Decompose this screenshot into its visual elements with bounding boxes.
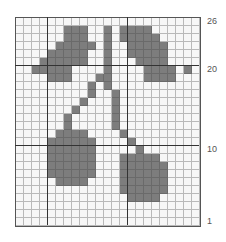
empty-cell — [176, 74, 184, 82]
empty-cell — [16, 202, 24, 210]
filled-stitch-cell — [72, 50, 80, 58]
empty-cell — [176, 82, 184, 90]
empty-cell — [88, 210, 96, 218]
empty-cell — [152, 218, 160, 226]
empty-cell — [32, 218, 40, 226]
empty-cell — [16, 50, 24, 58]
empty-cell — [56, 106, 64, 114]
empty-cell — [32, 130, 40, 138]
empty-cell — [104, 106, 112, 114]
filled-stitch-cell — [56, 42, 64, 50]
empty-cell — [64, 98, 72, 106]
empty-cell — [168, 178, 176, 186]
filled-stitch-cell — [64, 114, 72, 122]
empty-cell — [184, 202, 192, 210]
filled-stitch-cell — [56, 74, 64, 82]
empty-cell — [128, 130, 136, 138]
filled-stitch-cell — [32, 66, 40, 74]
filled-stitch-cell — [48, 50, 56, 58]
empty-cell — [144, 98, 152, 106]
empty-cell — [24, 186, 32, 194]
empty-cell — [48, 210, 56, 218]
filled-stitch-cell — [64, 162, 72, 170]
empty-cell — [16, 170, 24, 178]
empty-cell — [168, 122, 176, 130]
empty-cell — [24, 178, 32, 186]
filled-stitch-cell — [88, 154, 96, 162]
empty-cell — [32, 26, 40, 34]
empty-cell — [104, 210, 112, 218]
empty-cell — [192, 130, 200, 138]
filled-stitch-cell — [56, 50, 64, 58]
filled-stitch-cell — [128, 186, 136, 194]
filled-stitch-cell — [64, 170, 72, 178]
empty-cell — [32, 202, 40, 210]
empty-cell — [32, 186, 40, 194]
empty-cell — [16, 130, 24, 138]
filled-stitch-cell — [72, 34, 80, 42]
empty-cell — [64, 202, 72, 210]
filled-stitch-cell — [152, 194, 160, 202]
filled-stitch-cell — [144, 42, 152, 50]
empty-cell — [24, 210, 32, 218]
empty-cell — [72, 82, 80, 90]
empty-cell — [168, 170, 176, 178]
empty-cell — [136, 218, 144, 226]
empty-cell — [152, 90, 160, 98]
empty-cell — [168, 90, 176, 98]
filled-stitch-cell — [136, 42, 144, 50]
empty-cell — [128, 202, 136, 210]
empty-cell — [24, 162, 32, 170]
filled-stitch-cell — [152, 162, 160, 170]
empty-cell — [24, 18, 32, 26]
filled-stitch-cell — [56, 146, 64, 154]
empty-cell — [24, 82, 32, 90]
empty-cell — [24, 66, 32, 74]
filled-stitch-cell — [152, 170, 160, 178]
empty-cell — [32, 122, 40, 130]
empty-cell — [80, 122, 88, 130]
filled-stitch-cell — [48, 66, 56, 74]
empty-cell — [184, 18, 192, 26]
filled-stitch-cell — [144, 194, 152, 202]
empty-cell — [104, 202, 112, 210]
filled-stitch-cell — [72, 42, 80, 50]
filled-stitch-cell — [88, 162, 96, 170]
empty-cell — [32, 178, 40, 186]
filled-stitch-cell — [104, 34, 112, 42]
empty-cell — [64, 106, 72, 114]
empty-cell — [24, 114, 32, 122]
empty-cell — [104, 114, 112, 122]
empty-cell — [72, 66, 80, 74]
empty-cell — [32, 82, 40, 90]
empty-cell — [192, 114, 200, 122]
filled-stitch-cell — [64, 178, 72, 186]
empty-cell — [168, 114, 176, 122]
empty-cell — [192, 218, 200, 226]
empty-cell — [168, 202, 176, 210]
filled-stitch-cell — [136, 34, 144, 42]
filled-stitch-cell — [160, 74, 168, 82]
filled-stitch-cell — [64, 50, 72, 58]
empty-cell — [72, 194, 80, 202]
filled-stitch-cell — [144, 74, 152, 82]
empty-cell — [16, 194, 24, 202]
filled-stitch-cell — [56, 162, 64, 170]
filled-stitch-cell — [144, 170, 152, 178]
empty-cell — [112, 154, 120, 162]
empty-cell — [176, 66, 184, 74]
filled-stitch-cell — [136, 154, 144, 162]
filled-stitch-cell — [112, 90, 120, 98]
empty-cell — [144, 114, 152, 122]
filled-stitch-cell — [64, 26, 72, 34]
empty-cell — [24, 98, 32, 106]
empty-cell — [88, 34, 96, 42]
empty-cell — [56, 98, 64, 106]
row-number-label: 1 — [207, 216, 212, 226]
filled-stitch-cell — [72, 170, 80, 178]
filled-stitch-cell — [160, 178, 168, 186]
empty-cell — [48, 34, 56, 42]
empty-cell — [80, 186, 88, 194]
filled-stitch-cell — [152, 178, 160, 186]
empty-cell — [80, 90, 88, 98]
